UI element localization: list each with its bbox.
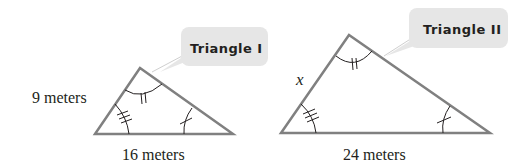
triangle-1: Triangle I 9 meters 16 meters <box>32 27 268 163</box>
triangle-2-callout: Triangle II <box>384 8 508 56</box>
triangle-2-base-label: 24 meters <box>343 146 406 163</box>
triangle-2: Triangle II x 24 meters <box>281 8 508 163</box>
triangle-1-side-label: 9 meters <box>32 89 87 106</box>
triangle-2-callout-label: Triangle II <box>423 22 501 37</box>
triangle-1-callout: Triangle I <box>152 27 268 72</box>
similar-triangles-figure: Triangle I 9 meters 16 meters Triangle I… <box>0 0 525 167</box>
triangle-2-side-label: x <box>295 70 304 89</box>
triangle-1-base-label: 16 meters <box>122 146 185 163</box>
triangle-1-callout-label: Triangle I <box>190 41 262 56</box>
